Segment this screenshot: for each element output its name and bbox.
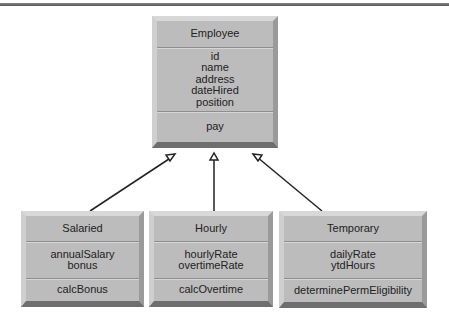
class-salaried: Salaried annualSalary bonus calcBonus [21,211,144,307]
class-name: Employee [157,21,273,48]
attributes: id name address dateHired position [157,48,273,112]
attribute: bonus [26,260,139,272]
attributes: annualSalary bonus [26,242,139,279]
attribute: ytdHours [284,260,422,272]
attributes: dailyRate ytdHours [284,242,422,279]
method: pay [157,112,273,142]
class-hourly: Hourly hourlyRate overtimeRate calcOvert… [149,211,273,307]
class-employee: Employee id name address dateHired posit… [152,16,278,148]
attributes: hourlyRate overtimeRate [154,242,268,279]
class-name: Salaried [26,216,139,242]
attribute: overtimeRate [154,260,268,272]
method: calcOvertime [154,279,268,301]
class-name: Hourly [154,216,268,242]
attribute: position [157,97,273,109]
class-name: Temporary [284,216,422,242]
method: calcBonus [26,279,139,301]
class-temporary: Temporary dailyRate ytdHours determinePe… [279,211,427,308]
method: determinePermEligibility [284,279,422,302]
